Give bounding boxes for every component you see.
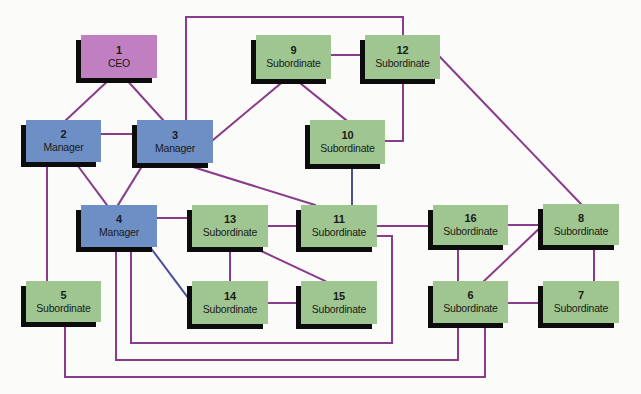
node-number: 10 — [341, 129, 353, 142]
node-number: 7 — [578, 289, 584, 302]
node-box: 7Subordinate — [543, 281, 619, 323]
node-box: 16Subordinate — [433, 205, 508, 245]
node-number: 8 — [578, 212, 584, 225]
node-number: 4 — [116, 213, 122, 226]
node-box: 12Subordinate — [365, 35, 440, 79]
node-box: 3Manager — [137, 120, 213, 163]
edge-4-14 — [150, 247, 192, 303]
node-role: Subordinate — [554, 302, 608, 315]
edge-2-4 — [75, 162, 107, 205]
node-role: Subordinate — [320, 142, 374, 155]
node-box: 14Subordinate — [192, 281, 268, 324]
node-box: 2Manager — [26, 120, 101, 162]
node-number: 1 — [116, 44, 122, 57]
edge-12-10 — [385, 79, 403, 141]
node-box: 11Subordinate — [301, 205, 377, 247]
node-number: 15 — [333, 290, 345, 303]
node-number: 14 — [224, 290, 236, 303]
node-role: Subordinate — [36, 302, 90, 315]
edge-5-6 — [65, 326, 485, 377]
edge-1-3 — [125, 78, 163, 120]
node-box: 6Subordinate — [433, 281, 508, 323]
node-box: 8Subordinate — [543, 204, 619, 245]
node-number: 2 — [60, 128, 66, 141]
node-box: 10Subordinate — [310, 120, 385, 164]
edge-3-11 — [193, 167, 315, 205]
node-number: 16 — [464, 212, 476, 225]
node-role: Manager — [43, 141, 83, 154]
node-number: 11 — [333, 213, 345, 226]
edge-12-8 — [440, 57, 581, 204]
node-role: Subordinate — [443, 302, 497, 315]
node-role: Manager — [99, 226, 139, 239]
node-role: Subordinate — [375, 57, 429, 70]
node-role: Subordinate — [312, 226, 366, 239]
edge-9-10 — [295, 79, 346, 120]
edge-3-4 — [118, 163, 144, 205]
node-number: 6 — [467, 289, 473, 302]
node-role: Subordinate — [203, 226, 257, 239]
edge-1-2 — [66, 78, 111, 120]
node-role: CEO — [108, 57, 130, 70]
node-number: 9 — [290, 44, 296, 57]
node-box: 13Subordinate — [192, 205, 268, 247]
node-box: 1CEO — [81, 35, 157, 78]
org-network-diagram: 1CEO2Manager3Manager4Manager5Subordinate… — [0, 0, 641, 394]
node-role: Subordinate — [443, 225, 497, 238]
node-role: Subordinate — [312, 303, 366, 316]
node-number: 13 — [224, 213, 236, 226]
node-box: 15Subordinate — [301, 281, 377, 324]
node-number: 3 — [172, 129, 178, 142]
edge-3-9 — [213, 79, 286, 140]
node-box: 4Manager — [81, 205, 157, 247]
node-role: Subordinate — [203, 303, 257, 316]
node-role: Subordinate — [554, 225, 608, 238]
node-box: 5Subordinate — [26, 281, 101, 322]
node-role: Subordinate — [266, 57, 320, 70]
edge-13-15 — [259, 250, 325, 281]
node-number: 12 — [396, 44, 408, 57]
node-number: 5 — [60, 289, 66, 302]
node-role: Manager — [155, 142, 195, 155]
node-box: 9Subordinate — [256, 35, 331, 79]
